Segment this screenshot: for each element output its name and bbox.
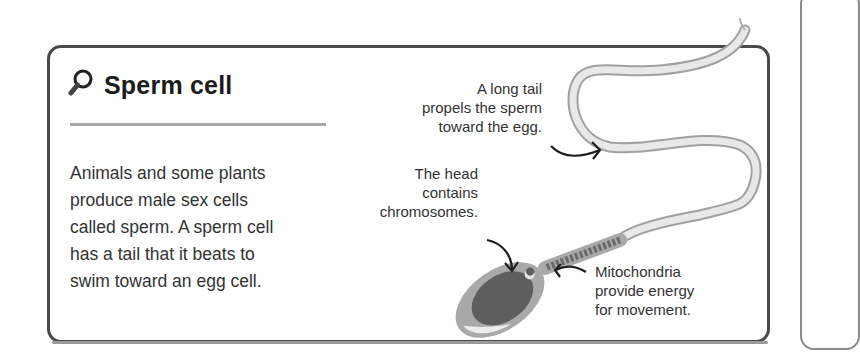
annotation-line: A long tail xyxy=(380,79,542,98)
tail-annotation: A long tail propels the sperm toward the… xyxy=(380,79,542,136)
annotation-line: Mitochondria xyxy=(595,262,745,281)
annotation-line: The head xyxy=(340,164,478,183)
annotation-line: propels the sperm xyxy=(380,98,542,117)
annotation-line: contains xyxy=(340,183,478,202)
head-annotation: The head contains chromosomes. xyxy=(340,164,478,221)
annotation-line: for movement. xyxy=(595,300,745,319)
annotation-line: toward the egg. xyxy=(380,117,542,136)
annotation-line: chromosomes. xyxy=(340,202,478,221)
mitochondria-annotation: Mitochondria provide energy for movement… xyxy=(595,262,745,319)
annotation-line: provide energy xyxy=(595,281,745,300)
